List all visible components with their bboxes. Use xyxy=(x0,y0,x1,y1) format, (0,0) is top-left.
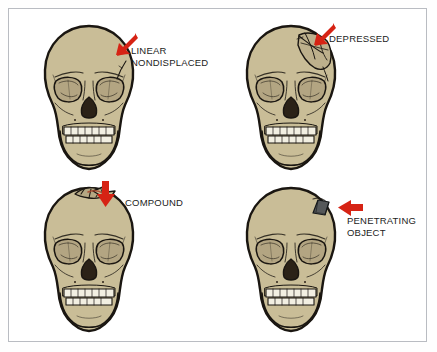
label-depressed: DEPRESSED xyxy=(329,33,389,45)
panel-penetrating-object: PENETRATING OBJECT xyxy=(221,177,426,340)
figure-frame: LINEAR NONDISPLACED xyxy=(8,8,427,342)
label-compound: COMPOUND xyxy=(125,197,183,209)
skull-fracture-figure: LINEAR NONDISPLACED xyxy=(0,0,437,352)
label-penetrating-object: PENETRATING OBJECT xyxy=(347,215,416,238)
panel-compound: COMPOUND xyxy=(19,177,224,340)
panel-linear-nondisplaced: LINEAR NONDISPLACED xyxy=(19,15,224,178)
panel-depressed: DEPRESSED xyxy=(221,15,426,178)
down-arrow-icon xyxy=(91,179,121,209)
label-linear-nondisplaced: LINEAR NONDISPLACED xyxy=(131,45,208,68)
penetrating-object-icon xyxy=(309,199,331,219)
